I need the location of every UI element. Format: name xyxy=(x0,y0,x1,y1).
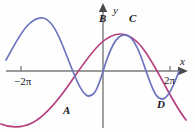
x-axis-label: x xyxy=(180,56,185,67)
plot-area xyxy=(0,0,195,132)
point-label-a: A xyxy=(63,105,70,116)
trig-graph-figure: A B C D y x −2π 2π xyxy=(0,0,195,132)
point-b-marker xyxy=(106,30,109,33)
point-label-b: B xyxy=(99,13,106,24)
x-tick-label-2pi: 2π xyxy=(164,75,175,86)
point-a-marker xyxy=(70,93,73,96)
y-axis-arrow-icon xyxy=(99,3,107,12)
point-c-marker xyxy=(129,31,132,34)
x-tick-label-neg-2pi: −2π xyxy=(14,76,31,87)
curve-blue xyxy=(6,18,179,99)
point-label-c: C xyxy=(129,13,136,24)
y-axis-label: y xyxy=(113,5,118,16)
point-label-d: D xyxy=(157,99,165,110)
